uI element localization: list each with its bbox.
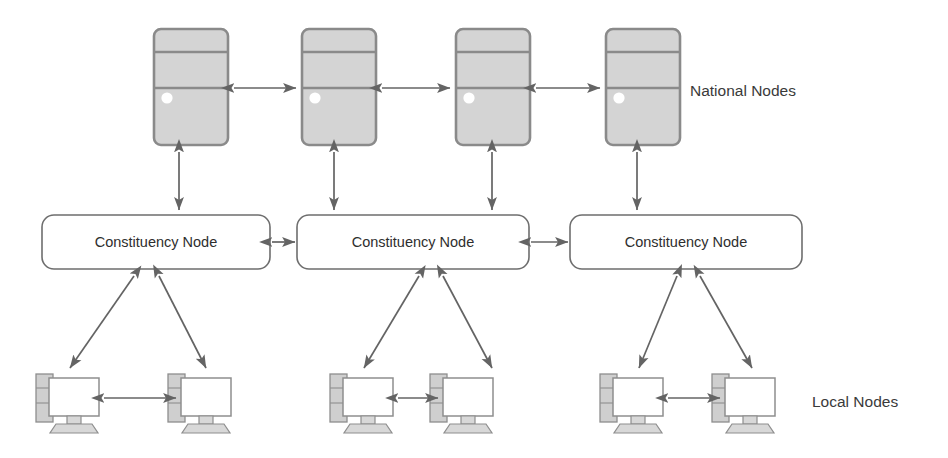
diagram-canvas: Constituency Node Constituency Node Cons… bbox=[0, 0, 948, 458]
desktop-computer-icon[interactable] bbox=[168, 374, 231, 433]
link-c1-l2 bbox=[159, 276, 206, 368]
tier-label-local-nodes: Local Nodes bbox=[812, 393, 898, 410]
constituency-to-local-links bbox=[70, 276, 752, 368]
desktop-computer-icon[interactable] bbox=[430, 374, 493, 433]
local-nodes-group bbox=[36, 374, 775, 433]
tier-label-national-nodes: National Nodes bbox=[690, 82, 796, 99]
server-tower-icon[interactable] bbox=[456, 29, 530, 145]
desktop-computer-icon[interactable] bbox=[712, 374, 775, 433]
constituency-node-box[interactable]: Constituency Node bbox=[297, 215, 529, 269]
constituency-node-label: Constituency Node bbox=[625, 234, 748, 250]
link-c1-l1 bbox=[70, 276, 134, 368]
constituency-nodes-group: Constituency Node Constituency Node Cons… bbox=[42, 215, 802, 269]
constituency-node-box[interactable]: Constituency Node bbox=[42, 215, 270, 269]
desktop-computer-icon[interactable] bbox=[36, 374, 99, 433]
desktop-computer-icon[interactable] bbox=[330, 374, 393, 433]
server-tower-icon[interactable] bbox=[606, 29, 680, 145]
server-tower-icon[interactable] bbox=[154, 29, 228, 145]
server-tower-icon[interactable] bbox=[302, 29, 376, 145]
national-nodes-group bbox=[154, 29, 680, 145]
network-topology-diagram: Constituency Node Constituency Node Cons… bbox=[0, 0, 948, 458]
constituency-node-label: Constituency Node bbox=[352, 234, 475, 250]
constituency-node-label: Constituency Node bbox=[95, 234, 218, 250]
national-to-constituency-links bbox=[179, 152, 637, 210]
constituency-node-box[interactable]: Constituency Node bbox=[570, 215, 802, 269]
link-c3-l6 bbox=[700, 276, 752, 368]
desktop-computer-icon[interactable] bbox=[600, 374, 663, 433]
link-c3-l5 bbox=[639, 276, 677, 368]
link-c2-l3 bbox=[364, 276, 419, 368]
link-c2-l4 bbox=[443, 276, 492, 368]
